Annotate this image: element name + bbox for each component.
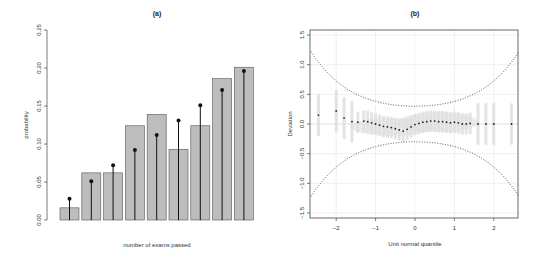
trend-point — [477, 123, 479, 125]
trend-point — [335, 110, 337, 112]
panel-b: (b) −2−1012−1.5−1.0−0.50.00.51.01.5 Devi… — [287, 10, 519, 247]
trend-point — [387, 126, 389, 128]
panel-a-y-label: probability — [23, 111, 29, 138]
panel-b-y-label: Deviation — [287, 111, 293, 136]
panel-a-y-axis: 0.000.050.100.150.200.25 — [36, 24, 47, 226]
panel-b-title: (b) — [411, 10, 420, 18]
lollipop-dot — [133, 148, 137, 152]
lollipop-dot — [177, 118, 181, 122]
figure: (a) 0.000.050.100.150.200.25 probability… — [0, 0, 543, 258]
panel-a: (a) 0.000.050.100.150.200.25 probability… — [23, 10, 253, 248]
x-tick-label: 2 — [492, 225, 496, 231]
y-tick-label: 0.25 — [36, 24, 42, 36]
trend-point — [375, 123, 377, 125]
y-tick-label: 1.5 — [299, 30, 305, 39]
trend-point — [367, 121, 369, 123]
trend-point — [461, 123, 463, 125]
trend-point — [493, 123, 495, 125]
trend-point — [485, 123, 487, 125]
trend-point — [457, 122, 459, 124]
lollipop-dot — [89, 179, 93, 183]
trend-point — [414, 124, 416, 126]
panel-b-x-label: Unit normal quantile — [388, 241, 442, 247]
trend-point — [357, 121, 359, 123]
trend-point — [351, 121, 353, 123]
trend-point — [422, 121, 424, 123]
lollipop-dot — [242, 69, 246, 73]
trend-point — [446, 121, 448, 123]
y-tick-label: −1.0 — [299, 177, 305, 190]
trend-point — [434, 120, 436, 122]
x-tick-label: 0 — [413, 225, 417, 231]
lollipop-dot — [68, 197, 72, 201]
trend-point — [465, 123, 467, 125]
lollipop-dot — [220, 88, 224, 92]
lollipop-dot — [155, 133, 159, 137]
trend-point — [426, 121, 428, 123]
trend-point — [454, 121, 456, 123]
y-tick-label: 0.00 — [36, 214, 42, 226]
trend-point — [430, 120, 432, 122]
y-tick-label: 0.0 — [299, 119, 305, 128]
y-tick-label: 0.20 — [36, 62, 42, 74]
trend-point — [371, 122, 373, 124]
trend-point — [406, 128, 408, 130]
x-tick-label: −2 — [333, 225, 341, 231]
y-tick-label: 0.05 — [36, 176, 42, 188]
lollipop-dot — [198, 103, 202, 107]
trend-point — [442, 121, 444, 123]
trend-point — [398, 129, 400, 131]
x-tick-label: 1 — [453, 225, 457, 231]
trend-point — [383, 125, 385, 127]
trend-point — [318, 114, 320, 116]
trend-point — [390, 127, 392, 129]
trend-point — [418, 123, 420, 125]
trend-point — [379, 124, 381, 126]
y-tick-label: 0.15 — [36, 100, 42, 112]
trend-point — [394, 128, 396, 130]
trend-point — [469, 123, 471, 125]
trend-point — [511, 123, 513, 125]
y-tick-label: 1.0 — [299, 60, 305, 69]
y-tick-label: −0.5 — [299, 147, 305, 160]
trend-point — [343, 117, 345, 119]
trend-point — [402, 130, 404, 132]
lollipop-dot — [111, 163, 115, 167]
x-tick-label: −1 — [372, 225, 380, 231]
y-tick-label: 0.5 — [299, 90, 305, 99]
panel-a-x-label: number of exams passed — [123, 242, 190, 248]
trend-point — [410, 126, 412, 128]
panel-a-bars — [60, 67, 253, 220]
panel-a-title: (a) — [153, 10, 162, 18]
trend-point — [363, 120, 365, 122]
trend-point — [450, 122, 452, 124]
y-tick-label: 0.10 — [36, 138, 42, 150]
trend-point — [438, 121, 440, 123]
y-tick-label: −1.5 — [299, 206, 305, 219]
